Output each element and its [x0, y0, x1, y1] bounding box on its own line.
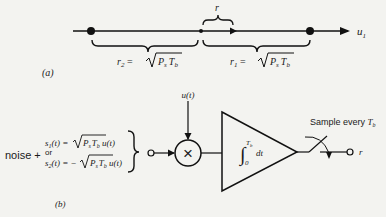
svg-text:0: 0	[245, 159, 249, 167]
s2-equation: s2(t) = − PsTb u(t)	[45, 155, 122, 169]
sampler-label: Sample every Tb	[310, 117, 376, 128]
received-point-arrow-icon	[230, 28, 237, 35]
output-terminal	[347, 149, 353, 155]
signal-point-s2	[87, 27, 95, 35]
r2-label: r2 = PsTb	[117, 53, 182, 69]
signal-point-s1	[306, 27, 314, 35]
panel-b-caption: (b)	[55, 199, 66, 209]
r1-label: r1 = PsTb	[230, 53, 294, 69]
svg-text:PsTb u(t): PsTb u(t)	[82, 138, 115, 149]
multiply-icon: ×	[183, 144, 193, 163]
panel-b: noise + s1(t) = PsTb u(t) or s2(t) = − P…	[5, 90, 376, 209]
svg-text:PsTb u(t): PsTb u(t)	[89, 158, 122, 169]
svg-text:r1 =: r1 =	[230, 56, 246, 69]
svg-text:Tb: Tb	[246, 139, 253, 148]
svg-text:PsTb: PsTb	[157, 56, 178, 69]
svg-text:PsTb: PsTb	[269, 56, 290, 69]
panel-a: u1 r r2 = PsTb r1 = PsTb (a)	[42, 2, 366, 79]
svg-text:r2 =: r2 =	[117, 56, 133, 69]
svg-text:dt: dt	[256, 148, 264, 158]
svg-text:s2(t) = −: s2(t) = −	[45, 158, 77, 169]
top-brace	[203, 15, 233, 25]
s1-equation: s1(t) = PsTb u(t)	[45, 135, 115, 149]
noise-label: noise +	[5, 149, 41, 161]
right-brace	[203, 40, 310, 52]
reference-signal-label: u(t)	[182, 90, 195, 100]
integral-expression: ∫ Tb 0 dt	[238, 139, 264, 167]
origin-point	[199, 29, 203, 33]
reference-arrowhead-icon	[185, 133, 192, 140]
input-arrowhead-icon	[168, 150, 175, 157]
diagram-canvas: u1 r r2 = PsTb r1 = PsTb (a) noise + s1(…	[0, 0, 386, 217]
sampler-arrow-icon	[326, 152, 332, 159]
top-brace-label: r	[215, 2, 219, 13]
signal-group-brace	[128, 131, 139, 172]
output-label: r	[359, 147, 363, 157]
input-terminal	[148, 150, 154, 156]
axis-label: u1	[357, 25, 366, 40]
or-label: or	[45, 148, 52, 157]
left-brace	[92, 40, 198, 52]
axis-arrowhead-icon	[340, 27, 350, 35]
panel-a-caption: (a)	[42, 67, 54, 79]
